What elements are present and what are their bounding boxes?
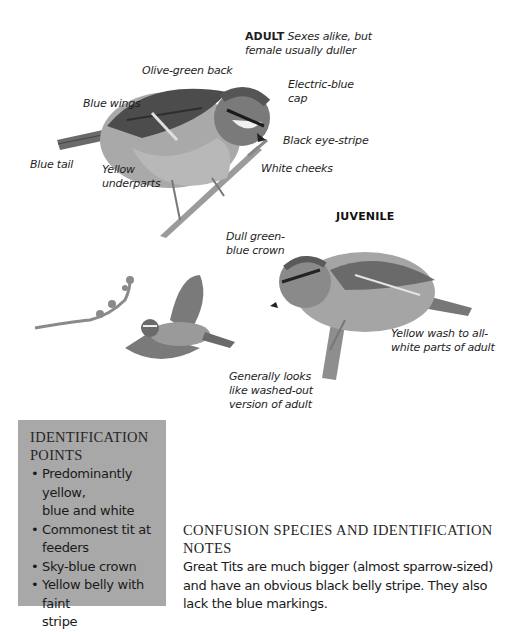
confusion-species-section: Confusion species and identification not… bbox=[183, 521, 503, 614]
adult-tag: ADULT bbox=[245, 30, 284, 43]
identification-points-list: • Predominantly yellow, blue and white •… bbox=[30, 465, 166, 632]
confusion-species-body: Great Tits are much bigger (almost sparr… bbox=[183, 558, 503, 614]
label-blue-wings: Blue wings bbox=[83, 97, 141, 111]
label-electric-blue-cap: Electric-blue cap bbox=[288, 78, 354, 106]
bullet-icon: • bbox=[31, 521, 38, 540]
flying-blue-tit-illustration bbox=[30, 270, 240, 370]
bullet-icon: • bbox=[31, 576, 38, 595]
confusion-species-title: Confusion species and identification not… bbox=[183, 521, 503, 557]
juvenile-blue-tit-illustration bbox=[270, 240, 480, 380]
adult-caption: ADULT Sexes alike, but female usually du… bbox=[245, 30, 372, 58]
id-point-item: • Predominantly yellow, blue and white bbox=[30, 465, 166, 521]
label-generally-looks: Generally looks like washed-out version … bbox=[229, 370, 313, 412]
adult-note-line1: Sexes alike, but bbox=[288, 30, 372, 43]
id-point-item: • Commonest tit at feeders bbox=[30, 521, 166, 558]
label-yellow-wash: Yellow wash to all- white parts of adult bbox=[391, 327, 495, 355]
identification-points-box: Identification Points • Predominantly ye… bbox=[18, 420, 166, 606]
label-blue-tail: Blue tail bbox=[30, 158, 73, 172]
identification-points-title: Identification Points bbox=[30, 428, 160, 464]
id-point-item: • Yellow belly with faint stripe bbox=[30, 576, 166, 632]
adult-note-line2: female usually duller bbox=[245, 44, 356, 57]
label-white-cheeks: White cheeks bbox=[261, 162, 333, 176]
label-yellow-underparts: Yellow underparts bbox=[102, 163, 161, 191]
bullet-icon: • bbox=[31, 465, 38, 484]
id-point-item: • Sky-blue crown bbox=[30, 558, 166, 577]
label-black-eye-stripe: Black eye-stripe bbox=[283, 134, 368, 148]
bullet-icon: • bbox=[31, 558, 38, 577]
label-olive-green-back: Olive-green back bbox=[142, 64, 232, 78]
juvenile-heading: JUVENILE bbox=[336, 210, 394, 223]
